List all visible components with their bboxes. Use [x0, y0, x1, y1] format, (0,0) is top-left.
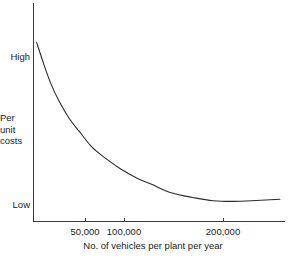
- x-axis-title: No. of vehicles per plant per year: [83, 240, 222, 251]
- y-axis-title-line-3: costs: [0, 135, 31, 147]
- y-axis-low-label: Low: [0, 199, 30, 210]
- cost-curve-line: [37, 42, 280, 201]
- chart-plot-area: [0, 0, 292, 265]
- y-axis-title-line-1: Per: [0, 112, 31, 124]
- x-tick-label-50000: 50,000: [70, 226, 99, 237]
- y-axis-title: Per unit costs: [0, 112, 31, 147]
- x-tick-label-100000: 100,000: [107, 226, 141, 237]
- cost-curve-chart: High Per unit costs Low 50,000 100,000 2…: [0, 0, 292, 265]
- y-axis-title-line-2: unit: [0, 124, 31, 136]
- x-tick-label-200000: 200,000: [206, 226, 240, 237]
- y-axis-high-label: High: [0, 51, 30, 62]
